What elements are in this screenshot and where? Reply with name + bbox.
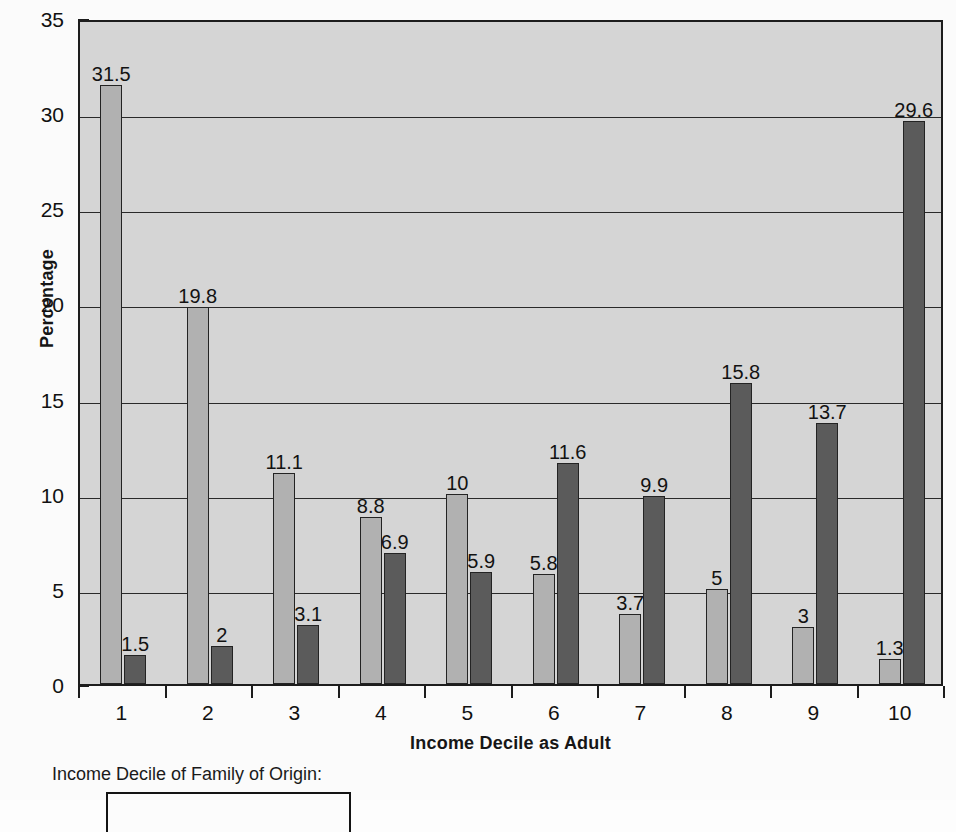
legend-title: Income Decile of Family of Origin: — [52, 764, 552, 785]
bar — [619, 614, 641, 684]
y-axis-tick-label: 35 — [20, 9, 64, 30]
bar-value-label: 6.9 — [363, 532, 427, 552]
x-axis-tick-label: 7 — [610, 702, 670, 723]
bar — [273, 473, 295, 684]
legend-box — [106, 792, 351, 832]
x-axis-tick-mark — [78, 686, 80, 698]
gridline — [80, 212, 941, 213]
bar-value-label: 5.9 — [449, 551, 513, 571]
bar-value-label: 11.1 — [252, 452, 316, 472]
bar — [124, 655, 146, 684]
x-axis-tick-mark — [511, 686, 513, 698]
bar-value-label: 1.5 — [103, 634, 167, 654]
gridline — [80, 307, 941, 308]
y-axis-tick-label: 0 — [20, 675, 64, 696]
y-axis-tick-labels: 05101520253035 — [12, 0, 64, 800]
bar — [643, 496, 665, 684]
x-axis-tick-mark — [338, 686, 340, 698]
x-axis-tick-mark — [943, 686, 945, 698]
bar-value-label: 11.6 — [536, 442, 600, 462]
x-axis-tick-label: 1 — [91, 702, 151, 723]
x-axis-tick-label: 8 — [697, 702, 757, 723]
x-axis-tick-mark — [424, 686, 426, 698]
x-axis-tick-label: 5 — [437, 702, 497, 723]
x-axis-tick-label: 2 — [178, 702, 238, 723]
x-axis-tick-mark — [770, 686, 772, 698]
y-axis-tick-label: 25 — [20, 199, 64, 220]
x-axis-ticks — [78, 686, 943, 700]
gridline — [80, 593, 941, 594]
x-axis-tick-mark — [165, 686, 167, 698]
bar-value-label: 9.9 — [622, 475, 686, 495]
bar-value-label: 13.7 — [795, 402, 859, 422]
bar-value-label: 29.6 — [882, 100, 946, 120]
x-axis-tick-mark — [684, 686, 686, 698]
bar-value-label: 8.8 — [339, 496, 403, 516]
bar-value-label: 31.5 — [79, 64, 143, 84]
x-axis-tick-label: 4 — [351, 702, 411, 723]
bar — [297, 625, 319, 684]
bar — [557, 463, 579, 684]
x-axis-tick-label: 10 — [870, 702, 930, 723]
bar — [706, 589, 728, 684]
bar — [384, 553, 406, 684]
plot-area: 31.519.811.18.8105.83.7531.31.523.16.95.… — [78, 20, 943, 686]
y-axis-tick-label: 15 — [20, 390, 64, 411]
bar — [446, 494, 468, 684]
bar-value-label: 19.8 — [166, 286, 230, 306]
plot-inner: 31.519.811.18.8105.83.7531.31.523.16.95.… — [80, 22, 941, 684]
gridline — [80, 117, 941, 118]
bar — [879, 659, 901, 684]
x-axis-tick-mark — [597, 686, 599, 698]
x-axis-title: Income Decile as Adult — [78, 733, 943, 754]
bar — [903, 121, 925, 684]
bar — [100, 85, 122, 684]
bar — [816, 423, 838, 684]
y-axis-tick-label: 30 — [20, 104, 64, 125]
bar-value-label: 2 — [190, 625, 254, 645]
bar — [211, 646, 233, 684]
bar — [730, 383, 752, 684]
y-axis-tick-label: 10 — [20, 485, 64, 506]
x-axis-tick-mark — [251, 686, 253, 698]
x-axis-tick-mark — [857, 686, 859, 698]
bar-value-label: 15.8 — [709, 362, 773, 382]
bar — [792, 627, 814, 684]
x-axis-tick-label: 6 — [524, 702, 584, 723]
x-axis-tick-label: 9 — [783, 702, 843, 723]
y-axis-tick-label: 5 — [20, 580, 64, 601]
y-axis-tick-label: 20 — [20, 294, 64, 315]
bar-value-label: 3.1 — [276, 604, 340, 624]
legend: Income Decile of Family of Origin: — [52, 764, 552, 832]
gridline — [80, 498, 941, 499]
x-axis-tick-label: 3 — [264, 702, 324, 723]
bar-value-label: 10 — [425, 473, 489, 493]
x-axis-tick-labels: 12345678910 — [78, 702, 943, 732]
bar — [533, 574, 555, 684]
bar — [470, 572, 492, 684]
